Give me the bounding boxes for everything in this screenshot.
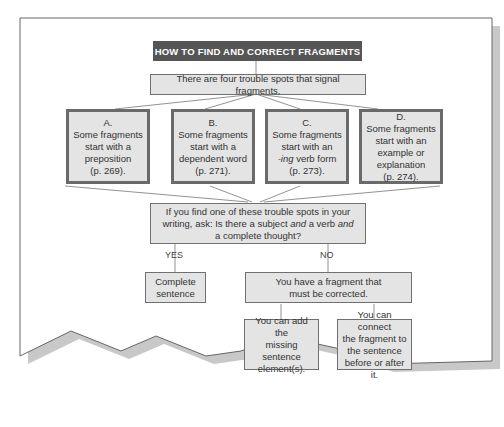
complete-sentence-box: Complete sentence [145,272,206,303]
intro-box: There are four trouble spots that signal… [150,74,366,95]
connect-fragment-box: You can connect the fragment to the sent… [337,319,412,370]
add-elements-box: You can add the missing sentence element… [244,319,319,370]
diagram-title: HOW TO FIND AND CORRECT FRAGMENTS [153,41,362,61]
spot-d-box: D. Some fragments start with an example … [359,109,443,184]
spot-a-box: A. Some fragments start with a prepositi… [66,109,150,184]
yes-label: YES [165,250,183,260]
question-box: If you find one of these trouble spots i… [150,203,366,244]
spot-b-box: B. Some fragments start with a dependent… [171,109,255,184]
fragment-box: You have a fragment that must be correct… [245,272,412,303]
no-label: NO [320,250,334,260]
intro-text: There are four trouble spots that signal… [155,73,361,97]
spot-c-box: C. Some fragments start with an -ing ver… [265,109,349,184]
